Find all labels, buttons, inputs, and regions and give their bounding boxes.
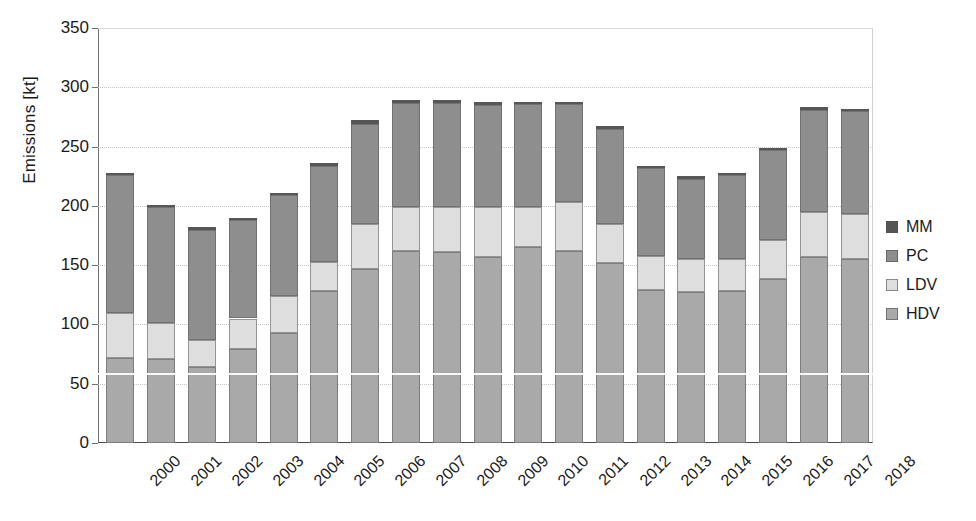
bar-segment-mm[interactable] — [351, 120, 379, 124]
bar-segment-pc[interactable] — [474, 105, 502, 207]
bar-segment-hdv[interactable] — [677, 292, 705, 443]
bar-segment-hdv[interactable] — [596, 263, 624, 443]
bar-segment-ldv[interactable] — [310, 262, 338, 292]
bar-segment-ldv[interactable] — [718, 259, 746, 291]
bar-segment-ldv[interactable] — [596, 224, 624, 263]
bar-segment-pc[interactable] — [310, 166, 338, 262]
legend-item-pc[interactable]: PC — [886, 241, 940, 270]
bar-segment-hdv[interactable] — [474, 257, 502, 443]
bar-segment-ldv[interactable] — [106, 313, 134, 358]
bar-segment-mm[interactable] — [555, 102, 583, 104]
bar-2004[interactable] — [270, 28, 298, 443]
bar-segment-ldv[interactable] — [637, 256, 665, 290]
legend-item-ldv[interactable]: LDV — [886, 270, 940, 299]
bar-segment-mm[interactable] — [474, 102, 502, 106]
bar-segment-hdv[interactable] — [514, 247, 542, 443]
bar-segment-hdv[interactable] — [147, 359, 175, 443]
bar-2003[interactable] — [229, 28, 257, 443]
bar-segment-pc[interactable] — [147, 207, 175, 323]
bar-2009[interactable] — [474, 28, 502, 443]
bar-segment-ldv[interactable] — [351, 224, 379, 269]
bar-segment-hdv[interactable] — [637, 290, 665, 443]
bar-2013[interactable] — [637, 28, 665, 443]
bar-segment-hdv[interactable] — [229, 349, 257, 443]
bar-segment-hdv[interactable] — [555, 251, 583, 443]
bar-segment-pc[interactable] — [596, 129, 624, 224]
legend-item-hdv[interactable]: HDV — [886, 299, 940, 328]
bar-segment-mm[interactable] — [637, 166, 665, 168]
bar-segment-hdv[interactable] — [800, 257, 828, 443]
bar-segment-ldv[interactable] — [474, 207, 502, 257]
bar-2008[interactable] — [433, 28, 461, 443]
bar-2002[interactable] — [188, 28, 216, 443]
bar-segment-ldv[interactable] — [270, 296, 298, 333]
bar-segment-mm[interactable] — [677, 176, 705, 178]
bar-segment-hdv[interactable] — [270, 333, 298, 443]
bar-segment-ldv[interactable] — [677, 259, 705, 292]
bar-segment-hdv[interactable] — [106, 358, 134, 443]
bar-segment-pc[interactable] — [555, 104, 583, 202]
bar-2016[interactable] — [759, 28, 787, 443]
bar-segment-hdv[interactable] — [392, 251, 420, 443]
bar-segment-ldv[interactable] — [800, 212, 828, 257]
bar-segment-ldv[interactable] — [433, 207, 461, 252]
bar-segment-pc[interactable] — [188, 230, 216, 340]
bar-2006[interactable] — [351, 28, 379, 443]
bar-segment-mm[interactable] — [229, 218, 257, 220]
bar-segment-pc[interactable] — [677, 179, 705, 260]
bar-2000[interactable] — [106, 28, 134, 443]
bar-segment-mm[interactable] — [841, 109, 869, 111]
bar-segment-pc[interactable] — [637, 168, 665, 256]
bar-segment-pc[interactable] — [106, 175, 134, 313]
bar-segment-hdv[interactable] — [759, 279, 787, 443]
bar-segment-mm[interactable] — [147, 205, 175, 207]
bar-segment-pc[interactable] — [392, 103, 420, 207]
bar-segment-hdv[interactable] — [718, 291, 746, 443]
bar-segment-pc[interactable] — [514, 104, 542, 207]
bar-segment-hdv[interactable] — [188, 367, 216, 443]
bar-segment-pc[interactable] — [841, 111, 869, 214]
bar-segment-hdv[interactable] — [310, 291, 338, 443]
bar-segment-ldv[interactable] — [147, 323, 175, 359]
bar-segment-pc[interactable] — [270, 195, 298, 296]
bar-2012[interactable] — [596, 28, 624, 443]
bar-segment-ldv[interactable] — [514, 207, 542, 247]
bar-segment-ldv[interactable] — [229, 319, 257, 350]
bar-2011[interactable] — [555, 28, 583, 443]
bar-segment-mm[interactable] — [392, 100, 420, 102]
bar-2007[interactable] — [392, 28, 420, 443]
legend-item-mm[interactable]: MM — [886, 212, 940, 241]
bar-segment-ldv[interactable] — [392, 207, 420, 251]
bar-segment-mm[interactable] — [718, 173, 746, 175]
bar-segment-pc[interactable] — [718, 175, 746, 259]
bar-segment-ldv[interactable] — [555, 202, 583, 251]
bar-segment-mm[interactable] — [596, 126, 624, 128]
bar-segment-mm[interactable] — [759, 148, 787, 150]
bar-segment-pc[interactable] — [433, 103, 461, 207]
bar-segment-mm[interactable] — [514, 102, 542, 104]
bar-segment-mm[interactable] — [106, 173, 134, 175]
bar-segment-mm[interactable] — [270, 193, 298, 195]
bar-2015[interactable] — [718, 28, 746, 443]
bar-2005[interactable] — [310, 28, 338, 443]
bar-2018[interactable] — [841, 28, 869, 443]
bar-segment-pc[interactable] — [351, 124, 379, 224]
bar-segment-mm[interactable] — [433, 100, 461, 102]
bar-segment-ldv[interactable] — [841, 214, 869, 259]
bar-segment-pc[interactable] — [759, 150, 787, 240]
x-tick-label-2016: 2016 — [799, 452, 837, 490]
bar-segment-mm[interactable] — [188, 227, 216, 229]
bar-2017[interactable] — [800, 28, 828, 443]
bar-segment-hdv[interactable] — [433, 252, 461, 443]
bar-segment-pc[interactable] — [800, 110, 828, 212]
bar-segment-ldv[interactable] — [188, 340, 216, 367]
bar-segment-mm[interactable] — [800, 107, 828, 109]
bar-segment-hdv[interactable] — [841, 259, 869, 443]
bar-segment-mm[interactable] — [310, 163, 338, 165]
bar-segment-hdv[interactable] — [351, 269, 379, 443]
bar-2001[interactable] — [147, 28, 175, 443]
bar-segment-pc[interactable] — [229, 220, 257, 318]
bar-2014[interactable] — [677, 28, 705, 443]
bar-2010[interactable] — [514, 28, 542, 443]
bar-segment-ldv[interactable] — [759, 240, 787, 279]
